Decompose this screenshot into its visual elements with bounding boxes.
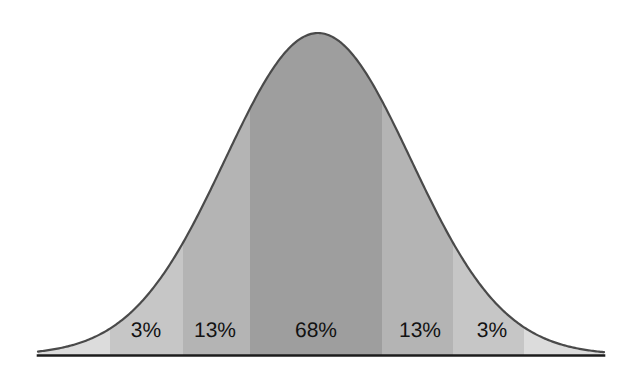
band-right-13-percent	[382, 0, 453, 355]
band-left-3-percent	[110, 0, 183, 355]
band-center-68-percent	[250, 0, 382, 355]
band-right-3-percent	[453, 0, 524, 355]
band-left-outer-tail	[38, 0, 110, 355]
band-label-left-3-percent: 3%	[131, 320, 161, 341]
band-right-outer-tail	[524, 0, 604, 355]
band-label-right-3-percent: 3%	[477, 320, 507, 341]
bell-curve-figure: 3% 13% 68% 13% 3%	[0, 0, 628, 378]
band-label-left-13-percent: 13%	[194, 320, 236, 341]
band-label-right-13-percent: 13%	[399, 320, 441, 341]
band-label-center-68-percent: 68%	[295, 320, 337, 341]
distribution-bands	[38, 0, 604, 355]
